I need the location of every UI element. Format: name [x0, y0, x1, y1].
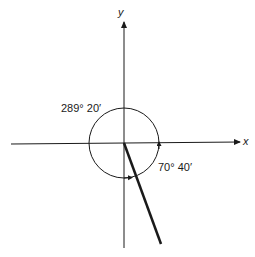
- y-axis-label: y: [118, 6, 124, 18]
- angle-label-70-40: 70° 40′: [158, 161, 192, 173]
- x-axis-label: x: [243, 135, 249, 147]
- angle-diagram: [0, 0, 255, 257]
- angle-label-289-20: 289° 20′: [61, 102, 101, 114]
- arrow-289-20: [124, 178, 132, 179]
